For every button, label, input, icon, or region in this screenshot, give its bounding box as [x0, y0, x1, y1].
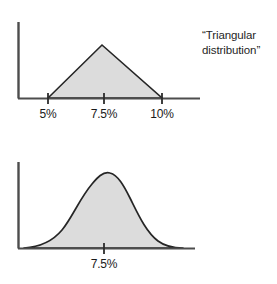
triangle-area-shape — [48, 45, 162, 98]
distribution-figures-page: 5% 7.5% 10% “Triangular distribution” 7.… — [0, 0, 277, 284]
figure-normal-distribution: 7.5% “Normal distribution” — [0, 142, 277, 284]
x-tick-label-7_5pct: 7.5% — [91, 107, 118, 121]
caption-triangular-line-2: distribution” — [202, 43, 260, 58]
bell-curve-area-shape — [24, 173, 183, 248]
figure-triangular-distribution: 5% 7.5% 10% “Triangular distribution” — [0, 0, 277, 142]
normal-distribution-plot — [0, 142, 277, 284]
x-tick-label-10pct: 10% — [150, 107, 173, 121]
caption-triangular-distribution: “Triangular distribution” — [202, 28, 260, 58]
caption-triangular-line-1: “Triangular — [202, 28, 260, 43]
x-tick-label-7_5pct: 7.5% — [91, 257, 118, 271]
x-tick-label-5pct: 5% — [40, 107, 57, 121]
